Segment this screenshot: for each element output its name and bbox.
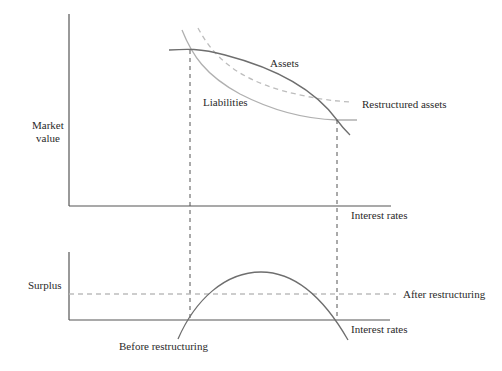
bottom-x-axis-label: Interest rates: [351, 323, 408, 335]
assets-label: Assets: [270, 57, 299, 69]
market-value-label-1: Market: [32, 119, 64, 131]
liabilities-label: Liabilities: [203, 96, 248, 108]
assets-curve: [169, 49, 350, 135]
before-restructuring-label: Before restructuring: [119, 340, 208, 352]
market-value-label-2: value: [36, 132, 60, 144]
asset-liability-diagram: Assets Liabilities Restructured assets M…: [0, 0, 502, 371]
surplus-label: Surplus: [28, 279, 62, 291]
after-restructuring-label: After restructuring: [403, 288, 486, 300]
restructured-assets-label: Restructured assets: [362, 98, 447, 110]
surplus-before-curve: [178, 272, 348, 340]
top-x-axis-label: Interest rates: [351, 209, 408, 221]
